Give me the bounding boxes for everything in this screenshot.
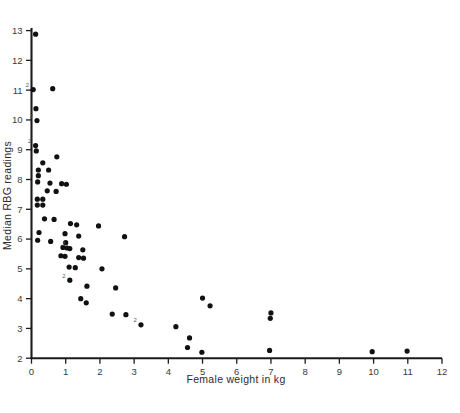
data-point (31, 87, 36, 92)
data-point (73, 265, 78, 270)
data-point (54, 189, 59, 194)
data-point (59, 181, 64, 186)
data-point (48, 239, 53, 244)
data-point (81, 256, 86, 261)
data-point (405, 348, 410, 353)
data-point (268, 310, 273, 315)
data-point (267, 348, 272, 353)
data-point (80, 247, 85, 252)
data-point (34, 148, 39, 153)
data-point (68, 221, 73, 226)
y-tick-label-7: 7 (17, 204, 22, 215)
data-point (62, 231, 67, 236)
data-point (185, 345, 190, 350)
data-point (84, 300, 89, 305)
data-point (173, 324, 178, 329)
data-point (35, 197, 40, 202)
y-tick-label-9: 9 (17, 144, 22, 155)
y-tick-label-12: 12 (12, 55, 23, 66)
data-point (54, 154, 59, 159)
data-point (36, 173, 41, 178)
x-tick-label-9: 9 (337, 366, 342, 377)
data-point (78, 296, 83, 301)
x-tick-label-4: 4 (166, 366, 171, 377)
y-tick-label-13: 13 (12, 25, 23, 36)
data-point (51, 217, 56, 222)
data-point (67, 246, 72, 251)
x-tick-label-0: 0 (29, 366, 34, 377)
y-tick-label-8: 8 (17, 174, 22, 185)
x-tick-label-2: 2 (97, 366, 102, 377)
y-axis-title: Median RBG readings (1, 141, 13, 250)
data-point (33, 32, 38, 37)
y-tick-label-3: 3 (17, 323, 22, 334)
data-point (99, 266, 104, 271)
data-point (40, 197, 45, 202)
data-point (268, 316, 273, 321)
data-point (187, 335, 192, 340)
x-tick-label-10: 10 (368, 366, 379, 377)
data-point (67, 278, 72, 283)
data-point (138, 322, 143, 327)
y-tick-label-5: 5 (17, 263, 22, 274)
data-point (207, 303, 212, 308)
data-point (40, 203, 45, 208)
data-point (35, 179, 40, 184)
y-tick-label-10: 10 (12, 114, 23, 125)
data-point (123, 312, 128, 317)
data-point (110, 312, 115, 317)
data-point (84, 284, 89, 289)
y-tick-label-4: 4 (17, 293, 22, 304)
data-point (35, 203, 40, 208)
data-point (64, 182, 69, 187)
data-point (33, 143, 38, 148)
data-point (36, 230, 41, 235)
x-tick-label-11: 11 (403, 366, 413, 377)
data-point (50, 86, 55, 91)
data-point (370, 349, 375, 354)
scatter-plot-figure: 2345678910111213 0123456789101112 Female… (0, 0, 460, 413)
data-point (34, 118, 39, 123)
data-point (113, 285, 118, 290)
data-point (47, 180, 52, 185)
data-point (45, 188, 50, 193)
data-point (35, 238, 40, 243)
data-point (36, 167, 41, 172)
data-point (96, 223, 101, 228)
data-point (76, 255, 81, 260)
data-point (67, 264, 72, 269)
data-point (62, 254, 67, 259)
data-point (199, 350, 204, 355)
y-tick-label-2: 2 (17, 353, 22, 364)
x-tick-label-1: 1 (63, 366, 68, 377)
figure-background (0, 0, 460, 413)
data-point (200, 295, 205, 300)
data-point (33, 106, 38, 111)
data-point (46, 167, 51, 172)
scatter-plot-canvas: 2345678910111213 0123456789101112 Female… (0, 0, 460, 413)
x-tick-label-3: 3 (131, 366, 136, 377)
x-axis-title: Female weight in kg (186, 373, 285, 385)
x-tick-label-12: 12 (437, 366, 448, 377)
data-point (74, 222, 79, 227)
data-point (122, 234, 127, 239)
y-tick-label-11: 11 (13, 85, 23, 96)
data-point (42, 216, 47, 221)
y-tick-label-6: 6 (17, 233, 22, 244)
data-point (40, 160, 45, 165)
x-tick-label-8: 8 (303, 366, 308, 377)
data-point (76, 233, 81, 238)
